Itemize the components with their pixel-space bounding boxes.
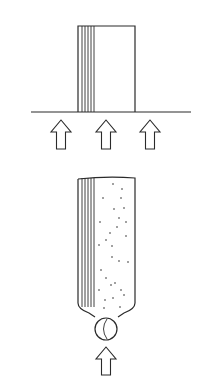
particle-dot — [104, 299, 106, 301]
particle-dot — [99, 221, 101, 223]
particle-dot — [118, 260, 120, 262]
particle-dot — [120, 197, 122, 199]
up-arrow-icon — [96, 120, 116, 149]
particle-dot — [102, 197, 104, 199]
particle-dot — [118, 217, 120, 219]
particle-dot — [98, 289, 100, 291]
dotted-container — [78, 177, 135, 317]
particle-dot — [111, 256, 113, 258]
up-arrow-icon — [96, 347, 116, 375]
particle-dot — [120, 289, 122, 291]
particle-dot — [110, 284, 112, 286]
particle-dot — [123, 294, 125, 296]
particle-dot — [112, 297, 114, 299]
up-arrow-icon — [140, 120, 160, 149]
bottom-panel — [78, 177, 135, 375]
particle-dot — [112, 183, 114, 185]
particle-dot — [105, 277, 107, 279]
particle-dot — [111, 245, 113, 247]
particle-dot — [105, 239, 107, 241]
diagram-canvas — [0, 0, 204, 386]
particle-dot — [125, 235, 127, 237]
particle-dot — [114, 282, 116, 284]
particle-dot — [125, 221, 127, 223]
particle-dot — [100, 269, 102, 271]
top-panel — [31, 26, 191, 149]
particle-dot — [119, 306, 121, 308]
particle-dot — [127, 261, 129, 263]
particle-dot — [103, 307, 105, 309]
particle-dot — [121, 188, 123, 190]
particle-dot — [98, 244, 100, 246]
particle-dot — [123, 207, 125, 209]
particle-dot — [109, 232, 111, 234]
layered-block — [78, 26, 135, 112]
diagram-svg — [0, 0, 204, 386]
particle-dot — [116, 226, 118, 228]
particle-dot — [113, 208, 115, 210]
up-arrow-icon — [51, 120, 71, 149]
